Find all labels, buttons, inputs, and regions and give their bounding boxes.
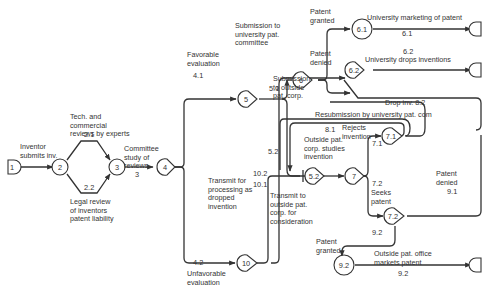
node-3: 3 — [109, 159, 125, 175]
label-univ-marketing: University marketing of patent — [367, 14, 462, 23]
svg-text:7.2: 7.2 — [388, 212, 398, 221]
label-legal-review: Legal review of inventors patent liabili… — [70, 198, 114, 224]
edge-number-3: 3 — [135, 171, 139, 179]
label-patent-denied-top: Patent denied — [310, 50, 332, 67]
node-10: 10 — [237, 255, 257, 272]
label-unfavorable: Unfavorable evaluation — [187, 270, 226, 287]
node-72: 7.2 — [384, 208, 404, 225]
label-favorable: Favorable evaluation — [187, 51, 220, 68]
edge-number-2-2: 2.2 — [84, 184, 94, 192]
node-92: 9.2 — [334, 255, 354, 275]
label-resubmission: Resubmission by university pat. com — [315, 111, 432, 120]
label-drop-inv: Drop inv. 8.2 — [385, 99, 425, 108]
svg-text:9.2: 9.2 — [339, 261, 349, 270]
svg-text:5.2: 5.2 — [309, 172, 319, 181]
node-71: 7.1 — [382, 128, 402, 145]
edge-number-9-2-b: 9.2 — [398, 270, 408, 278]
label-committee-study: Committee study of reviews — [124, 145, 159, 171]
svg-text:6.1: 6.1 — [357, 25, 367, 34]
edge-number-9-1: 9.1 — [447, 188, 457, 196]
node-52: 5.2 — [305, 168, 324, 185]
label-outside-studies: Outside pat. corp. studies invention — [304, 136, 345, 162]
edge-number-7-2: 7.2 — [372, 180, 382, 188]
svg-text:6.2: 6.2 — [349, 66, 359, 75]
svg-text:5: 5 — [244, 95, 248, 104]
label-patent-granted-bottom: Patent granted — [316, 238, 340, 255]
edge-number-2-1: 2.1 — [84, 131, 94, 139]
svg-text:10: 10 — [242, 259, 250, 268]
label-patent-granted-top: Patent granted — [310, 8, 334, 25]
node-7: 7 — [345, 168, 364, 185]
edge-number-6-1: 6.1 — [402, 30, 412, 38]
svg-text:2: 2 — [58, 163, 62, 172]
edge-number-8-1: 8.1 — [325, 126, 335, 134]
node-62: 6.2 — [345, 62, 364, 79]
node-2: 2 — [52, 159, 68, 175]
label-tech-reviews: Tech. and commercial reviews by experts — [70, 113, 130, 139]
label-univ-drops: University drops inventions — [365, 56, 451, 65]
svg-text:7.1: 7.1 — [386, 132, 396, 141]
label-inventor-submits: Inventor submits inv. — [20, 143, 57, 160]
end-terminal-6-1 — [469, 22, 481, 36]
node-1: 1 — [10, 163, 14, 172]
label-outside-markets: Outside pat. office markets patent — [374, 250, 432, 267]
edge-number-9-2-a: 9.2 — [372, 229, 382, 237]
label-transmit-outside: Transmit to outside pat. corp. for consi… — [270, 192, 313, 226]
svg-text:4: 4 — [163, 163, 167, 172]
node-4: 4 — [157, 159, 175, 176]
svg-text:3: 3 — [115, 163, 119, 172]
label-submission-univ: Submission to university pat. committee — [235, 22, 280, 48]
label-seeks-patent: Seeks patent — [371, 189, 391, 206]
edge-number-4-2: 4.2 — [193, 259, 203, 267]
node-5: 5 — [238, 91, 257, 108]
edge-number-5-2: 5.2 — [268, 148, 278, 156]
edge-number-7-1: 7.1 — [372, 140, 382, 148]
svg-text:7: 7 — [352, 172, 356, 181]
edge-number-10-1: 10.1 — [253, 181, 267, 189]
label-transmit-dropped: Transmit for processing as dropped inven… — [208, 177, 252, 211]
end-terminal-6-2 — [469, 63, 481, 77]
label-patent-denied-bottom: Patent denied — [436, 170, 458, 187]
label-rejects-invention: Rejects invention — [342, 124, 371, 141]
edge-number-4-1: 4.1 — [193, 72, 203, 80]
edge-number-5-1: 5.1 — [269, 85, 279, 93]
edge-number-10-2: 10.2 — [253, 170, 267, 178]
edge-number-6-2: 6.2 — [403, 48, 413, 56]
end-terminal-9-2 — [469, 258, 481, 272]
